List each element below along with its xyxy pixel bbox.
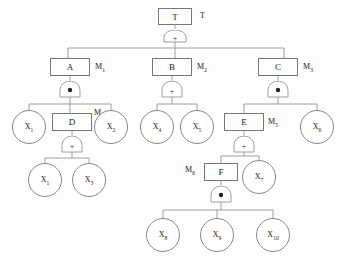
- node-box-E[interactable]: E: [224, 113, 264, 131]
- svg-text:+: +: [70, 142, 75, 151]
- gate-or-E: +: [232, 136, 256, 157]
- side-label-M3: M3: [303, 62, 313, 73]
- side-label-M1: M1: [95, 62, 105, 73]
- node-circle-X1-repeat[interactable]: X1: [28, 163, 62, 197]
- node-label-X4: X4: [153, 122, 162, 133]
- node-circle-X2[interactable]: X2: [94, 110, 128, 144]
- node-circle-X10[interactable]: X10: [256, 218, 290, 252]
- side-label-T: T: [200, 11, 205, 20]
- node-label-T: T: [172, 12, 178, 22]
- node-label-B: B: [169, 62, 175, 72]
- node-label-F: F: [218, 167, 223, 177]
- node-label-C: C: [275, 62, 281, 72]
- svg-text:+: +: [170, 87, 175, 96]
- node-circle-X5[interactable]: X5: [180, 110, 214, 144]
- gate-or-B: +: [160, 81, 184, 102]
- node-label-X3: X3: [85, 175, 94, 186]
- node-label-X9: X9: [213, 230, 222, 241]
- node-box-T[interactable]: T: [158, 8, 192, 25]
- node-label-X10: X10: [267, 230, 278, 241]
- side-label-M2: M2: [197, 62, 207, 73]
- node-label-X8: X8: [159, 230, 168, 241]
- node-label-A: A: [67, 62, 74, 72]
- node-label-X1: X1: [25, 122, 34, 133]
- node-circle-X8[interactable]: X8: [146, 218, 180, 252]
- gate-and-F: [209, 186, 233, 207]
- side-label-M5: M5: [268, 117, 278, 128]
- node-label-X7: X7: [255, 172, 264, 183]
- svg-text:+: +: [173, 34, 178, 43]
- node-circle-X1[interactable]: X1: [12, 110, 46, 144]
- node-circle-X4[interactable]: X4: [140, 110, 174, 144]
- node-circle-X7[interactable]: X7: [242, 160, 276, 194]
- side-label-M6: M6: [185, 165, 195, 176]
- node-box-D[interactable]: D: [52, 113, 92, 131]
- gate-or-D: +: [60, 136, 84, 157]
- gate-or-T: +: [162, 29, 188, 47]
- svg-text:+: +: [242, 142, 247, 151]
- node-circle-X3[interactable]: X3: [72, 163, 106, 197]
- fault-tree-diagram: + + + +: [0, 0, 345, 260]
- node-label-E: E: [241, 117, 247, 127]
- node-box-C[interactable]: C: [258, 58, 298, 76]
- node-label-X5: X5: [193, 122, 202, 133]
- node-label-X2: X2: [107, 122, 116, 133]
- gate-and-C: [266, 81, 290, 102]
- node-circle-X9[interactable]: X9: [200, 218, 234, 252]
- gate-and-A: [58, 81, 82, 102]
- node-label-D: D: [69, 117, 76, 127]
- node-circle-X6[interactable]: X6: [300, 110, 334, 144]
- node-label-X1-repeat: X1: [41, 175, 50, 186]
- node-box-B[interactable]: B: [152, 58, 192, 76]
- node-box-A[interactable]: A: [50, 58, 90, 76]
- node-box-F[interactable]: F: [204, 163, 238, 181]
- node-label-X6: X6: [313, 122, 322, 133]
